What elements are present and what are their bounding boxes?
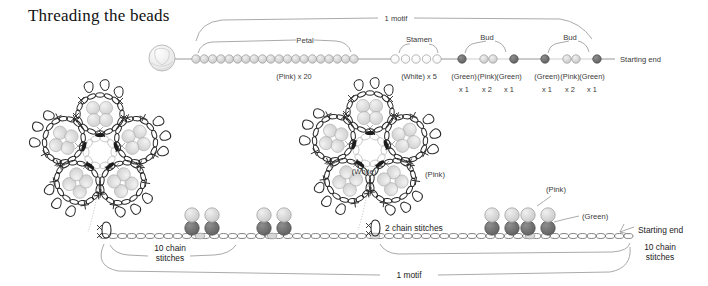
chain-bead-pink [485, 208, 499, 222]
petal-bead [87, 113, 100, 126]
petal-bead [369, 99, 382, 112]
chain-stitch-oval [391, 197, 400, 203]
chain-stitch [467, 234, 476, 239]
chain-stitch-oval [123, 160, 132, 166]
chain-bead-green [257, 221, 271, 235]
stamen-bracket [399, 44, 438, 53]
chain-bead-pairs [185, 208, 555, 235]
bud-sublabel-color: (Green) [451, 72, 476, 81]
bud-1-bead-row [458, 55, 518, 63]
bud-sublabel-qty: x 1 [504, 85, 514, 94]
picot-loop [100, 80, 109, 91]
top-threading-diagram: Petal (Pink) x 20 Stamen (White) x 5 Bud… [149, 14, 661, 94]
flower-petal [293, 102, 364, 171]
chain-stitch [596, 234, 605, 239]
bud-sublabel-qty: x 1 [459, 85, 469, 94]
chain-stitch [127, 234, 136, 239]
chain-bead-green [521, 221, 535, 235]
picot-loop [50, 196, 64, 210]
bud-2-bracket-label: Bud [563, 33, 577, 42]
picot-loop [31, 121, 44, 133]
slip-stitch [95, 133, 105, 137]
bud-sublabel-qty: x 1 [542, 85, 552, 94]
chain-stitch-oval [357, 91, 366, 98]
picot-loop [384, 85, 393, 96]
picot-loop [383, 202, 397, 216]
chain-stitch-oval [87, 93, 96, 100]
petal-bead [350, 55, 358, 63]
petal-bead [325, 55, 333, 63]
bud-sublabel-qty: x 2 [482, 85, 492, 94]
chain-stitch-oval [351, 131, 356, 140]
chain-stitch-oval [421, 128, 428, 137]
chain-stitch [293, 234, 302, 239]
chain-stitch [311, 234, 320, 239]
chain-stitch [559, 234, 568, 239]
chain-stitch-oval [117, 117, 124, 126]
chain-stitch-oval [374, 126, 383, 133]
chain-bead-pink [257, 208, 271, 222]
bud-1-bead [510, 55, 518, 63]
picot-loop [298, 135, 311, 147]
bud-1-bead [480, 55, 488, 63]
chain-bead-green [277, 221, 291, 235]
ten-chain-label-right-1: 10 chain [644, 242, 676, 252]
chain-stitch [320, 234, 329, 239]
bud-1-bead [489, 55, 497, 63]
petal-bead [225, 55, 233, 63]
petal-bead [217, 55, 225, 63]
picot-loop [141, 191, 155, 205]
stamen-bead [391, 55, 399, 63]
slip-stitch [365, 131, 375, 135]
bud-sublabel-color: (Green) [579, 72, 604, 81]
chain-stitch [458, 234, 467, 239]
petal-bead [333, 55, 341, 63]
picot-loop [156, 145, 169, 157]
center-white-label: (White) [352, 167, 377, 176]
top-motif-label: 1 motif [385, 14, 409, 23]
petal-bead [99, 113, 112, 126]
chain-stitch-oval [375, 195, 384, 203]
chain-stitch [394, 234, 403, 239]
chain-stitch-oval [312, 136, 317, 145]
picot-loop [354, 80, 363, 91]
chain-stitch [164, 234, 173, 239]
bud-1-bead [458, 55, 466, 63]
chain-bead-green [485, 221, 499, 235]
chain-stitch [247, 234, 256, 239]
chain-stitch [237, 234, 246, 239]
bead-green-callout-label: (Green) [582, 212, 609, 221]
flower-petal [357, 146, 434, 224]
stamen-bracket-label: Stamen [406, 35, 432, 44]
bud-2-bead [563, 55, 571, 63]
bud-sublabel-color: (Pink) [560, 72, 579, 81]
chain-stitch-oval [70, 199, 79, 205]
petal-bead [292, 55, 300, 63]
flower-motif-left [23, 80, 177, 232]
chain-stitch-oval [393, 158, 402, 164]
petal-bracket [198, 40, 351, 53]
chain-bead-pink [185, 208, 199, 222]
flower-petal [23, 104, 94, 173]
chain-stitch-oval [366, 91, 374, 95]
yarn-ball-icon [149, 45, 175, 71]
petal-bead [200, 55, 208, 63]
chain-stitch-oval [348, 123, 356, 132]
chain-join-stitch [195, 233, 205, 239]
chain-stitch [173, 234, 182, 239]
chain-stitch [385, 234, 394, 239]
chain-stitch [329, 234, 338, 239]
top-starting-end-label: Starting end [620, 55, 661, 64]
petal-bead [208, 55, 216, 63]
bud-2-bead [572, 55, 580, 63]
chain-bead-pink [205, 208, 219, 222]
chain-stitch [615, 234, 624, 239]
chain-stitch-oval [96, 93, 104, 97]
bottom-crochet-diagram: (White) (Pink) 2 chain stitches 10 chai [23, 78, 684, 280]
petal-bead [283, 55, 291, 63]
chain-bead-pink [277, 208, 291, 222]
chain-stitch-oval [342, 117, 351, 126]
picot-loop [114, 87, 123, 98]
chain-stitch-oval [387, 115, 394, 124]
chain-stitch [302, 234, 311, 239]
